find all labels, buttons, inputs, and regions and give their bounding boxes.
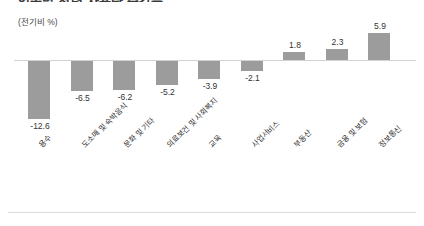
bar-value-label: 1.8 xyxy=(274,40,316,50)
footer-divider xyxy=(8,212,416,213)
bar xyxy=(241,61,263,71)
bar-value-label: 5.9 xyxy=(359,21,401,31)
bar xyxy=(71,61,93,91)
bar xyxy=(28,61,50,119)
bar-group: -12.6 xyxy=(19,0,61,140)
bar-value-label: -6.2 xyxy=(104,92,146,102)
bar xyxy=(283,52,305,60)
bar xyxy=(198,61,220,79)
bar-value-label: -5.2 xyxy=(147,87,189,97)
bar-value-label: -12.6 xyxy=(19,121,61,131)
bar-value-label: -2.1 xyxy=(232,73,274,83)
bar-value-label: 2.3 xyxy=(317,37,359,47)
bar-value-label: -6.5 xyxy=(62,93,104,103)
bar xyxy=(368,33,390,60)
bar-group: -2.1 xyxy=(232,0,274,140)
bar-value-label: -3.9 xyxy=(189,81,231,91)
bar xyxy=(326,49,348,60)
bar xyxy=(113,61,135,90)
bar-chart: 업종별 전력 사용량 증감률 (전기비 %) -12.6-6.5-6.2-5.2… xyxy=(0,0,424,226)
bar-group: 1.8 xyxy=(274,0,316,140)
bar xyxy=(156,61,178,85)
bar-group: -6.5 xyxy=(62,0,104,140)
bar-group: 2.3 xyxy=(317,0,359,140)
